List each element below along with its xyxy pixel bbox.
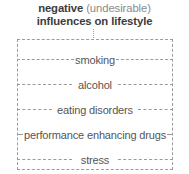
diagram-title: negative (undesirable) influences on lif… xyxy=(0,2,189,28)
row-dash-left xyxy=(17,59,74,60)
diagram-title-line-2: influences on lifestyle xyxy=(0,15,189,28)
influence-label-smoking: smoking xyxy=(74,54,116,66)
row-dash-left xyxy=(17,109,52,110)
list-item: stress xyxy=(17,153,173,166)
row-dash-right xyxy=(118,84,173,85)
list-item: smoking xyxy=(17,53,173,66)
diagram-title-line-1: negative (undesirable) xyxy=(0,2,189,15)
list-item: eating disorders xyxy=(17,103,173,116)
influence-label-stress: stress xyxy=(72,154,118,166)
influences-row-list: smoking alcohol eating disorders perform… xyxy=(17,39,173,170)
row-dash-right xyxy=(118,159,173,160)
diagram-title-bold-influences: influences on lifestyle xyxy=(37,15,153,27)
list-item: performance enhancing drugs xyxy=(17,128,173,141)
row-dash-right xyxy=(138,109,173,110)
influences-diagram: negative (undesirable) influences on lif… xyxy=(0,0,189,174)
influence-label-performance-enhancing-drugs: performance enhancing drugs xyxy=(23,129,167,141)
row-dash-right xyxy=(167,134,173,135)
diagram-title-qualifier-undesirable: (undesirable) xyxy=(83,2,151,14)
influence-label-alcohol: alcohol xyxy=(72,79,118,91)
list-item: alcohol xyxy=(17,78,173,91)
influence-label-eating-disorders: eating disorders xyxy=(52,104,138,116)
row-dash-right xyxy=(116,59,173,60)
diagram-title-bold-negative: negative xyxy=(38,2,83,14)
row-dash-left xyxy=(17,159,72,160)
row-dash-left xyxy=(17,84,72,85)
